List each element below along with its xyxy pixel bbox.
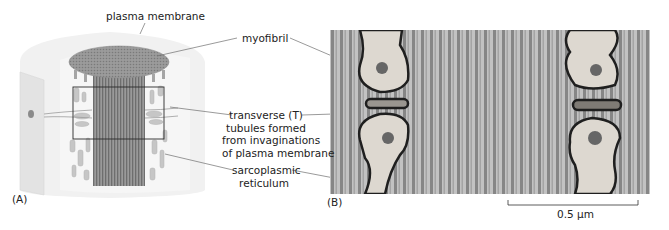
label-sr-line-1: sarcoplasmic — [232, 164, 296, 177]
panel-a-tag: (A) — [12, 193, 27, 205]
label-sr-line-2: reticulum — [232, 177, 296, 190]
t-tubule-opening — [28, 110, 34, 118]
scale-bar-label: 0.5 µm — [557, 208, 594, 221]
label-myofibril: myofibril — [242, 32, 288, 45]
panel-b-tag: (B) — [327, 196, 342, 208]
label-t-tubules-line-4: of plasma membrane — [222, 147, 310, 160]
label-t-tubules-line-3: from invaginations — [222, 134, 310, 147]
label-t-tubules-line-2: tubules formed — [222, 122, 310, 135]
label-t-tubules-line-1: transverse (T) — [222, 109, 310, 122]
scale-bar — [508, 200, 638, 205]
electron-micrograph — [330, 30, 650, 194]
label-plasma-membrane: plasma membrane — [106, 10, 205, 23]
label-sarcoplasmic-reticulum: sarcoplasmic reticulum — [232, 164, 296, 189]
label-t-tubules: transverse (T) tubules formed from invag… — [222, 109, 310, 159]
